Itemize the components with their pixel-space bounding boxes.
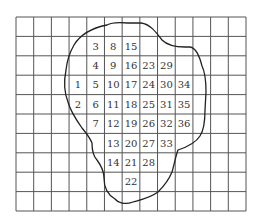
cell-number: 21 xyxy=(125,157,138,168)
cell-number: 11 xyxy=(107,99,120,110)
cell-number: 18 xyxy=(125,99,138,110)
cell-number: 29 xyxy=(160,60,173,71)
cell-number: 8 xyxy=(110,41,116,52)
cell-number: 15 xyxy=(125,41,138,52)
cell-number: 14 xyxy=(107,157,120,168)
cell-number: 26 xyxy=(142,118,155,129)
cell-number: 28 xyxy=(142,157,155,168)
cell-number: 30 xyxy=(160,79,173,90)
cell-number: 6 xyxy=(92,99,98,110)
cell-number: 1 xyxy=(75,79,81,90)
cell-number: 32 xyxy=(160,118,173,129)
cell-number: 19 xyxy=(125,118,138,129)
cell-number: 36 xyxy=(178,118,191,129)
cell-number: 5 xyxy=(92,79,98,90)
cell-number: 22 xyxy=(125,176,138,187)
cell-number: 34 xyxy=(178,79,191,90)
cell-number: 12 xyxy=(107,118,120,129)
cell-number: 2 xyxy=(75,99,81,110)
cell-number: 23 xyxy=(142,60,155,71)
cell-number: 7 xyxy=(92,118,98,129)
cell-number: 24 xyxy=(142,79,155,90)
cell-number: 20 xyxy=(125,138,138,149)
cell-number: 31 xyxy=(160,99,173,110)
cell-number: 17 xyxy=(125,79,138,90)
cell-number: 10 xyxy=(107,79,120,90)
cell-number: 35 xyxy=(178,99,191,110)
cell-number: 3 xyxy=(92,41,98,52)
cell-number: 13 xyxy=(107,138,120,149)
cell-number: 16 xyxy=(125,60,138,71)
cell-number: 27 xyxy=(142,138,155,149)
cell-number: 4 xyxy=(92,60,98,71)
cell-number: 9 xyxy=(110,60,116,71)
cell-number: 25 xyxy=(142,99,155,110)
grid-diagram: 3815491623291510172430342611182531357121… xyxy=(0,0,258,223)
cell-number: 33 xyxy=(160,138,173,149)
